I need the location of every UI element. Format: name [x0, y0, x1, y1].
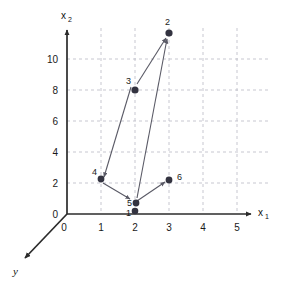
figure-canvas: 1 2 3 4 5 6 0 1 2 3 4 5 0 2 4 6 8 10 x — [0, 0, 281, 285]
y-axis — [25, 214, 67, 258]
x-axis-tick-labels: 0 1 2 3 4 5 — [61, 222, 240, 233]
y-tick-0: 0 — [52, 209, 58, 220]
data-point-label-4: 4 — [92, 167, 97, 177]
data-point-1 — [132, 208, 139, 215]
coordinate-plot: 1 2 3 4 5 6 0 1 2 3 4 5 0 2 4 6 8 10 x — [0, 0, 281, 285]
data-point-label-2: 2 — [165, 17, 170, 27]
y-tick-4: 4 — [52, 147, 58, 158]
axis-name-labels: x 1 x 2 y — [12, 10, 269, 277]
arrow-3-to-2 — [137, 38, 166, 84]
x2-axis-label: x — [61, 10, 66, 21]
axis-lines — [25, 30, 251, 258]
x-tick-5: 5 — [234, 222, 240, 233]
y-axis-tick-labels: 0 2 4 6 8 10 — [47, 54, 59, 220]
y-tick-2: 2 — [52, 178, 58, 189]
gridlines-horizontal — [67, 59, 268, 183]
data-point-label-5: 5 — [127, 198, 132, 208]
x-tick-3: 3 — [166, 222, 172, 233]
data-point-labels: 1 2 3 4 5 6 — [92, 17, 182, 218]
y-tick-10: 10 — [47, 54, 59, 65]
y-tick-8: 8 — [52, 85, 58, 96]
data-point-6 — [166, 177, 173, 184]
arrow-5-to-6 — [137, 182, 165, 201]
data-point-label-1: 1 — [126, 208, 131, 218]
x-tick-0: 0 — [61, 222, 67, 233]
x-tick-2: 2 — [132, 222, 138, 233]
arrow-3-to-4 — [104, 87, 131, 177]
x1-axis-label: x — [258, 207, 263, 218]
x2-axis-label-subscript: 2 — [68, 16, 72, 23]
data-point-5 — [133, 200, 140, 207]
data-point-3 — [131, 86, 138, 93]
arrow-4-to-5 — [103, 183, 130, 199]
x-tick-1: 1 — [98, 222, 104, 233]
arrow-5-to-2 — [137, 39, 167, 198]
x1-axis-label-subscript: 1 — [265, 213, 269, 220]
y-axis-label: y — [12, 265, 18, 277]
data-point-label-6: 6 — [177, 172, 182, 182]
y-tick-6: 6 — [52, 116, 58, 127]
data-point-4 — [98, 176, 105, 183]
data-point-label-3: 3 — [126, 76, 131, 86]
data-point-2 — [165, 29, 172, 36]
x-tick-4: 4 — [200, 222, 206, 233]
